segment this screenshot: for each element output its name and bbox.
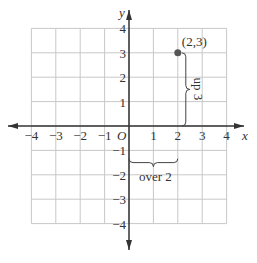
y-tick-label: 3 xyxy=(120,46,127,61)
y-axis-label: y xyxy=(117,5,125,20)
x-axis-label: x xyxy=(241,128,248,143)
y-tick-label: −4 xyxy=(112,217,126,232)
y-tick-label: 4 xyxy=(120,21,127,36)
up-brace xyxy=(182,53,190,126)
over-annotation: over 2 xyxy=(139,169,172,184)
y-tick-label: −2 xyxy=(112,168,126,183)
x-tick-label: −1 xyxy=(98,128,112,143)
y-tick-label: −1 xyxy=(112,143,126,158)
y-tick-label: 1 xyxy=(120,95,127,110)
y-axis-up-arrow-icon xyxy=(126,10,132,20)
x-tick-label: 3 xyxy=(199,128,206,143)
coordinate-plane: xyO −4−3−2−112344321−1−2−3−4 up 3over 2 … xyxy=(0,0,257,263)
axes: xyO xyxy=(8,5,248,250)
origin-label: O xyxy=(117,128,127,143)
x-tick-label: −3 xyxy=(49,128,63,143)
x-axis-left-arrow-icon xyxy=(8,123,18,129)
y-axis-down-arrow-icon xyxy=(126,240,132,250)
point-label: (2,3) xyxy=(182,34,207,49)
x-tick-label: 2 xyxy=(175,128,182,143)
y-tick-label: 2 xyxy=(120,70,127,85)
x-tick-label: 1 xyxy=(150,128,157,143)
data-point xyxy=(174,49,181,56)
x-tick-label: −4 xyxy=(24,128,38,143)
x-tick-label: −2 xyxy=(73,128,87,143)
annotations: up 3over 2 xyxy=(129,53,206,184)
up-annotation: up 3 xyxy=(191,77,206,100)
x-tick-label: 4 xyxy=(223,128,230,143)
y-tick-label: −3 xyxy=(112,192,126,207)
